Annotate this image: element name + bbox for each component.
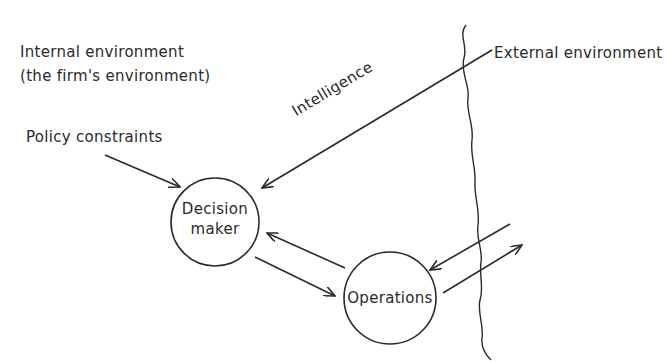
internal-environment-sublabel: (the firm's environment) bbox=[20, 67, 211, 85]
policy-constraints-label: Policy constraints bbox=[26, 128, 163, 146]
external-environment-label: External environment bbox=[494, 44, 663, 62]
operations-label: Operations bbox=[344, 289, 436, 307]
inbound-arrow bbox=[430, 224, 510, 270]
policy-arrow bbox=[105, 155, 180, 187]
internal-environment-label: Internal environment bbox=[20, 43, 184, 61]
decision-maker-label-line2: maker bbox=[171, 220, 259, 238]
feedback-arrow bbox=[267, 233, 345, 268]
environment-boundary bbox=[463, 25, 491, 360]
decision-maker-label-line1: Decision bbox=[171, 200, 259, 218]
outbound-arrow bbox=[443, 245, 522, 293]
diagram-canvas: Internal environment (the firm's environ… bbox=[0, 0, 667, 362]
command-arrow bbox=[255, 257, 335, 296]
